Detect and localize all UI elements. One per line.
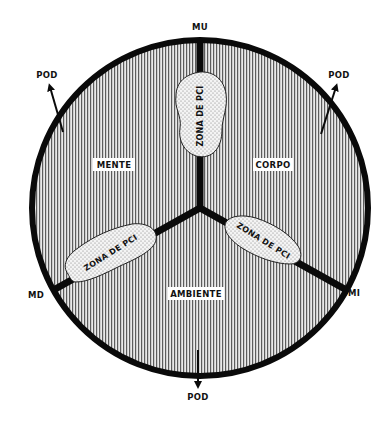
axis-label-mi: MI — [348, 288, 360, 298]
zone-top-label: ZONA DE PCI — [196, 85, 205, 146]
axis-label-top: MU — [192, 22, 208, 32]
sector-corpo-label: CORPO — [256, 160, 291, 170]
sector-mente: MENTE — [93, 158, 135, 171]
zone-top: ZONA DE PCI — [176, 72, 227, 157]
axis-label-md: MD — [28, 290, 44, 300]
pod-label-upper-left: POD — [36, 70, 57, 80]
pod-label-bottom: POD — [187, 392, 208, 402]
sector-ambiente-label: AMBIENTE — [170, 289, 222, 299]
sector-corpo: CORPO — [253, 158, 293, 171]
sector-mente-label: MENTE — [97, 160, 131, 170]
sector-ambiente: AMBIENTE — [168, 287, 224, 300]
pci-diagram: ZONA DE PCI ZONA DE PCI ZONA DE PCI MENT… — [0, 0, 383, 421]
pod-label-upper-right: POD — [328, 70, 349, 80]
